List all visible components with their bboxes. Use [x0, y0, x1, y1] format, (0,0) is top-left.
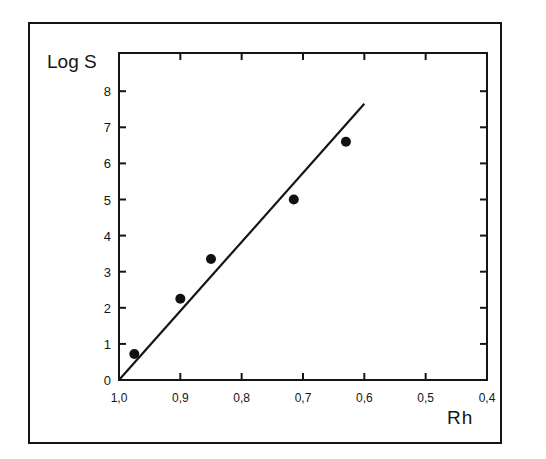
y-tick-label: 1 [104, 337, 111, 352]
x-tick-label: 0,9 [172, 391, 189, 405]
y-tick-label: 4 [104, 229, 111, 244]
y-tick-label: 3 [104, 265, 111, 280]
x-tick-label: 0,4 [479, 391, 496, 405]
chart-plot: 1,00,90,80,70,60,50,4012345678 [0, 0, 546, 459]
y-tick-label: 8 [104, 84, 111, 99]
plot-box [119, 53, 487, 380]
x-tick-label: 0,7 [295, 391, 312, 405]
y-tick-label: 6 [104, 156, 111, 171]
plot-axes [119, 53, 487, 380]
regression-line [119, 104, 364, 380]
data-point [129, 349, 139, 359]
x-tick-label: 0,5 [417, 391, 434, 405]
data-point [206, 254, 216, 264]
x-tick-label: 0,8 [233, 391, 250, 405]
data-points [129, 137, 351, 359]
fit-line [119, 104, 364, 380]
x-tick-label: 0,6 [356, 391, 373, 405]
data-point [341, 137, 351, 147]
x-tick-label: 1,0 [111, 391, 128, 405]
axis-ticks: 1,00,90,80,70,60,50,4012345678 [104, 53, 496, 405]
y-tick-label: 7 [104, 120, 111, 135]
y-tick-label: 5 [104, 193, 111, 208]
y-tick-label: 2 [104, 301, 111, 316]
data-point [289, 195, 299, 205]
y-tick-label: 0 [104, 373, 111, 388]
data-point [175, 294, 185, 304]
